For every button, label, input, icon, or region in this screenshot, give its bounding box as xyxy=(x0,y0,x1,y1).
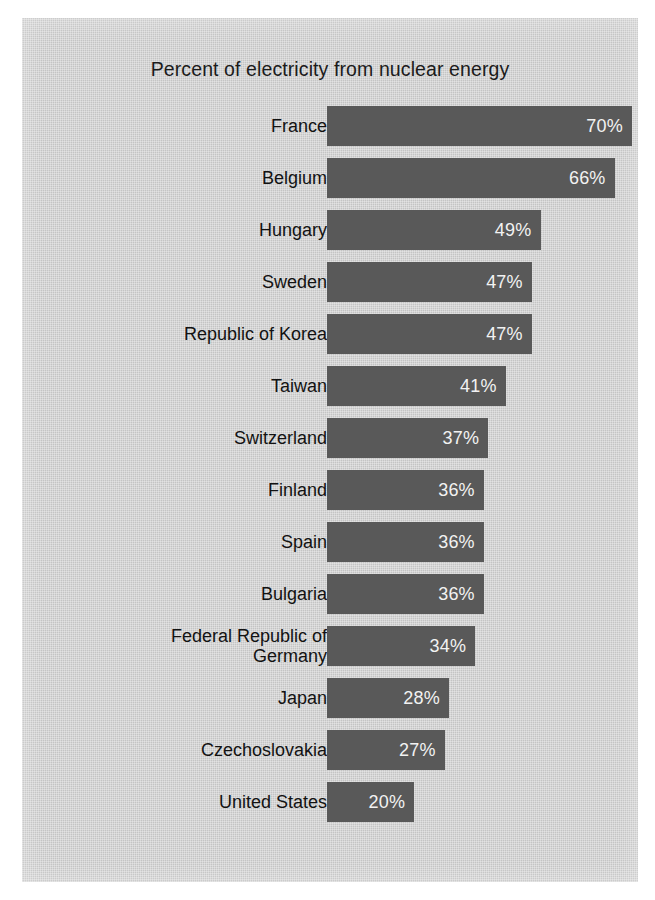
bar-row: France70% xyxy=(22,106,638,146)
bar-category-label: Spain xyxy=(67,522,327,562)
bar-fill: 28% xyxy=(327,678,449,718)
bar-fill: 36% xyxy=(327,470,484,510)
bar-row: Japan28% xyxy=(22,678,638,718)
bar-fill: 34% xyxy=(327,626,475,666)
bar-category-label: Finland xyxy=(67,470,327,510)
bar-category-label: Belgium xyxy=(67,158,327,198)
bar-value-label: 37% xyxy=(443,428,480,449)
bar-category-label: Switzerland xyxy=(67,418,327,458)
bar-row: Bulgaria36% xyxy=(22,574,638,614)
bar-row: Federal Republic of Germany34% xyxy=(22,626,638,666)
bar-fill: 66% xyxy=(327,158,615,198)
bar-row: Switzerland37% xyxy=(22,418,638,458)
bar-track: 36% xyxy=(327,574,638,614)
bar-row: Spain36% xyxy=(22,522,638,562)
bar-value-label: 20% xyxy=(369,792,406,813)
bar-row: Taiwan41% xyxy=(22,366,638,406)
bar-row: Republic of Korea47% xyxy=(22,314,638,354)
bar-fill: 47% xyxy=(327,262,532,302)
bar-category-label: France xyxy=(67,106,327,146)
bar-track: 70% xyxy=(327,106,638,146)
bar-track: 34% xyxy=(327,626,638,666)
bar-category-label: Bulgaria xyxy=(67,574,327,614)
bar-value-label: 36% xyxy=(438,584,475,605)
bar-track: 66% xyxy=(327,158,638,198)
bar-category-label: Taiwan xyxy=(67,366,327,406)
bar-fill: 20% xyxy=(327,782,414,822)
chart-panel: Percent of electricity from nuclear ener… xyxy=(22,18,638,882)
bar-value-label: 47% xyxy=(486,324,523,345)
bar-value-label: 27% xyxy=(399,740,436,761)
bar-category-label: United States xyxy=(67,782,327,822)
bar-track: 36% xyxy=(327,522,638,562)
bar-value-label: 49% xyxy=(495,220,532,241)
bar-track: 49% xyxy=(327,210,638,250)
bar-fill: 37% xyxy=(327,418,488,458)
bar-row: Sweden47% xyxy=(22,262,638,302)
bar-track: 28% xyxy=(327,678,638,718)
bar-track: 47% xyxy=(327,314,638,354)
bar-row: Hungary49% xyxy=(22,210,638,250)
bar-category-label: Czechoslovakia xyxy=(67,730,327,770)
bar-track: 20% xyxy=(327,782,638,822)
bar-category-label: Japan xyxy=(67,678,327,718)
bar-track: 47% xyxy=(327,262,638,302)
bar-fill: 36% xyxy=(327,574,484,614)
bar-row: Finland36% xyxy=(22,470,638,510)
bar-value-label: 36% xyxy=(438,532,475,553)
bar-track: 36% xyxy=(327,470,638,510)
bar-value-label: 70% xyxy=(586,116,623,137)
plot-area: France70%Belgium66%Hungary49%Sweden47%Re… xyxy=(22,88,638,848)
bar-fill: 49% xyxy=(327,210,541,250)
bar-category-label: Republic of Korea xyxy=(67,314,327,354)
bar-fill: 41% xyxy=(327,366,506,406)
bar-value-label: 36% xyxy=(438,480,475,501)
bar-row: Czechoslovakia27% xyxy=(22,730,638,770)
bar-fill: 27% xyxy=(327,730,445,770)
bar-category-label: Hungary xyxy=(67,210,327,250)
chart-title: Percent of electricity from nuclear ener… xyxy=(22,58,638,81)
bar-track: 41% xyxy=(327,366,638,406)
bar-value-label: 47% xyxy=(486,272,523,293)
bar-track: 27% xyxy=(327,730,638,770)
bar-track: 37% xyxy=(327,418,638,458)
bar-category-label: Federal Republic of Germany xyxy=(67,626,327,666)
bar-value-label: 41% xyxy=(460,376,497,397)
bar-row: Belgium66% xyxy=(22,158,638,198)
bar-fill: 47% xyxy=(327,314,532,354)
bar-row: United States20% xyxy=(22,782,638,822)
bar-category-label: Sweden xyxy=(67,262,327,302)
nuclear-energy-bar-chart-figure: Percent of electricity from nuclear ener… xyxy=(0,0,655,900)
bar-value-label: 34% xyxy=(430,636,467,657)
bar-fill: 36% xyxy=(327,522,484,562)
bar-value-label: 66% xyxy=(569,168,606,189)
bar-value-label: 28% xyxy=(403,688,440,709)
bar-fill: 70% xyxy=(327,106,632,146)
